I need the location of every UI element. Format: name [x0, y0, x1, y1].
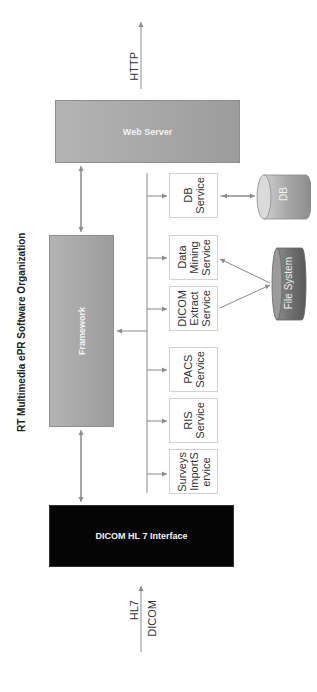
- dicom-hl7-interface-label: DICOM HL 7 Interface: [96, 531, 188, 541]
- pacs-service-label: PACS Service: [182, 351, 206, 388]
- file-system-label: File System: [283, 257, 294, 309]
- dicom-extract-service-box: DICOM Extract Service: [169, 286, 218, 331]
- data-mining-service-label: Data Mining Service: [176, 239, 212, 276]
- dicom-hl7-interface-box: DICOM HL 7 Interface: [49, 505, 234, 567]
- dicom-protocol-label: DICOM: [146, 600, 158, 637]
- db-cylinder: DB: [256, 174, 311, 220]
- data-mining-service-box: Data Mining Service: [169, 235, 218, 280]
- surveys-import-service-label: Surveys ImportS ervice: [176, 452, 212, 492]
- db-service-box: DB Service: [169, 173, 218, 218]
- hl7-label: HL7: [128, 600, 140, 620]
- diagram-title: RT Multimedia ePR Software Organization: [16, 232, 27, 432]
- pacs-service-box: PACS Service: [169, 347, 218, 392]
- web-server-box: Web Server: [55, 100, 240, 163]
- db-label: DB: [278, 187, 289, 201]
- dicom-extract-service-label: DICOM Extract Service: [176, 290, 212, 327]
- ris-service-box: RIS Service: [169, 398, 218, 443]
- http-label: HTTP: [128, 52, 140, 81]
- web-server-label: Web Server: [123, 127, 172, 137]
- surveys-import-service-box: Surveys ImportS ervice: [169, 449, 218, 494]
- framework-label: Framework: [77, 307, 87, 355]
- db-service-label: DB Service: [182, 177, 206, 214]
- ris-service-label: RIS Service: [182, 402, 206, 439]
- file-system-cylinder: File System: [271, 247, 307, 321]
- framework-box: Framework: [49, 235, 114, 427]
